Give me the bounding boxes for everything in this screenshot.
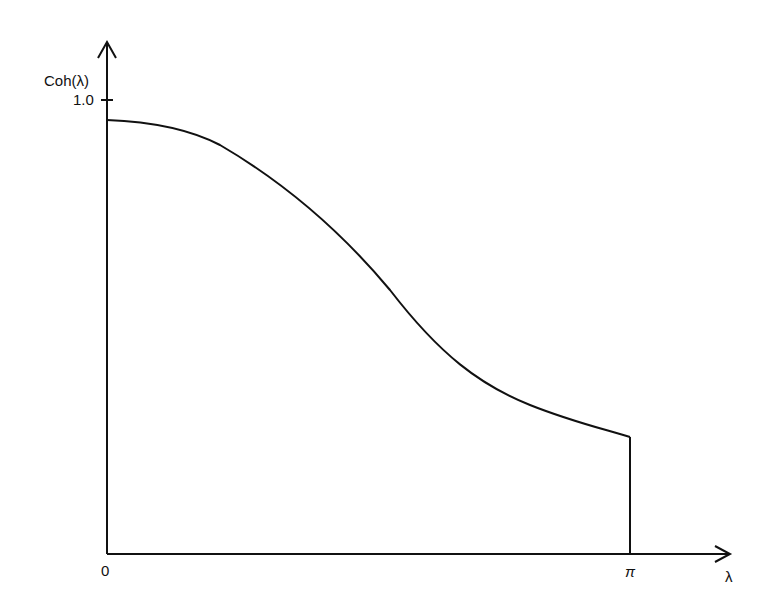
- x-tick-pi-label: π: [625, 563, 635, 580]
- coherence-curve: [107, 120, 630, 437]
- x-axis-label: λ: [725, 568, 733, 585]
- chart-canvas: [0, 0, 763, 602]
- y-tick-label: 1.0: [73, 91, 94, 108]
- x-tick-0-label: 0: [101, 562, 109, 579]
- y-axis-label: Coh(λ): [44, 72, 89, 89]
